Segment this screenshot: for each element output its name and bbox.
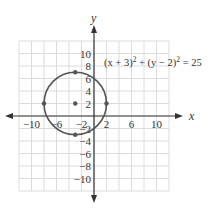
y-tick-label: 4 <box>86 85 92 97</box>
x-tick-label: −10 <box>23 118 41 130</box>
data-point <box>104 101 108 105</box>
y-tick-label: −6 <box>79 148 91 160</box>
y-tick-label: −8 <box>79 160 91 172</box>
y-axis-arrow-up-icon <box>91 25 97 33</box>
x-tick-label: 2 <box>104 118 110 130</box>
x-axis-label: x <box>188 109 195 123</box>
data-point <box>73 70 77 74</box>
y-tick-label: 10 <box>80 48 92 60</box>
y-axis-label: y <box>90 11 97 25</box>
data-point <box>73 133 77 137</box>
x-axis-arrow-right-icon <box>175 113 183 119</box>
y-axis-arrow-down-icon <box>91 195 97 203</box>
x-axis-arrow-left-icon <box>5 113 13 119</box>
graph: y x −10−6−22610108642−2−4−6−8−10 (x + 3)… <box>0 0 220 210</box>
data-point <box>73 101 77 105</box>
y-tick-label: −4 <box>79 135 91 147</box>
x-tick-label: 6 <box>129 118 135 130</box>
y-tick-label: 8 <box>86 60 92 72</box>
y-tick-label: 2 <box>86 98 92 110</box>
data-point <box>42 101 46 105</box>
equation-label: (x + 3)2 + (y − 2)2 = 25 <box>104 55 202 69</box>
x-tick-label: 10 <box>151 118 163 130</box>
y-tick-label: −10 <box>74 173 92 185</box>
